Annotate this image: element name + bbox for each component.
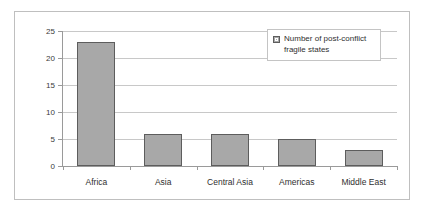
y-axis-tick-label: 5	[51, 135, 55, 144]
x-axis-tick-mark	[397, 166, 398, 170]
x-axis-label-asia: Asia	[155, 177, 172, 187]
gridline	[63, 166, 397, 167]
chart-legend: Number of post-conflict fragile states	[267, 29, 381, 61]
bar-asia[interactable]	[144, 134, 182, 166]
x-axis-tick-mark	[330, 166, 331, 170]
x-axis-tick-mark	[263, 166, 264, 170]
y-axis-tick-label: 10	[46, 108, 55, 117]
bar-africa[interactable]	[77, 42, 115, 166]
legend-swatch-icon	[273, 36, 280, 43]
bar-slot	[130, 31, 197, 166]
bar-central-asia[interactable]	[211, 134, 249, 166]
bar-slot	[63, 31, 130, 166]
y-axis-tick-label: 0	[51, 162, 55, 171]
y-axis-tick-label: 15	[46, 81, 55, 90]
bar-americas[interactable]	[278, 139, 316, 166]
legend-label-line-2: fragile states	[284, 45, 329, 54]
x-axis-label-americas: Americas	[279, 177, 314, 187]
y-axis-tick-label: 25	[46, 27, 55, 36]
x-axis-tick-mark	[130, 166, 131, 170]
x-axis-label-central-asia: Central Asia	[207, 177, 253, 187]
legend-label: Number of post-conflict fragile states	[284, 34, 366, 55]
chart-container: 0510152025AfricaAsiaCentral AsiaAmericas…	[14, 11, 410, 200]
legend-label-line-1: Number of post-conflict	[284, 34, 366, 43]
x-axis-label-africa: Africa	[86, 177, 108, 187]
y-axis-tick-label: 20	[46, 54, 55, 63]
x-axis-tick-mark	[197, 166, 198, 170]
x-axis-tick-mark	[63, 166, 64, 170]
bar-slot	[197, 31, 264, 166]
x-axis-label-middle-east: Middle East	[341, 177, 385, 187]
bar-middle-east[interactable]	[345, 150, 383, 166]
